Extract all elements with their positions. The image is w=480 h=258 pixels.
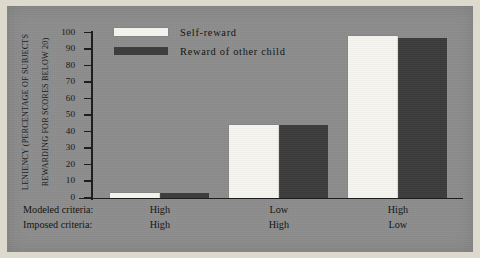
legend-swatch-other-child [114,47,168,55]
figure-page: LENIENCY (PERCENTAGE OF SUBJECTS REWARDI… [0,0,480,258]
bar-group-3 [348,33,447,198]
bar-self-reward-group-3 [348,36,397,198]
y-tick-50: 50 [84,114,91,115]
legend-label-self-reward: Self-reward [180,27,237,38]
y-axis-title-line-2: REWARDING FOR SCORES BELOW 20) [37,20,55,204]
x-axis-row-label-1: Modeled criteria: [23,204,93,215]
legend-item-other-child: Reward of other child [114,44,286,58]
y-tick-100: 100 [84,32,91,33]
y-tick-label-40: 40 [66,126,75,136]
y-axis-title: LENIENCY (PERCENTAGE OF SUBJECTS REWARDI… [17,20,57,204]
y-tick-label-60: 60 [66,93,75,103]
y-tick-0: 0 [84,197,91,198]
y-tick-label-50: 50 [66,109,75,119]
y-tick-90: 90 [84,48,91,49]
legend-label-other-child: Reward of other child [180,46,286,57]
bar-other-child-group-3 [398,38,447,198]
x-axis-row-1: Modeled criteria:HighLowHigh [23,204,473,219]
y-tick-30: 30 [84,147,91,148]
x-axis-value-r2-c2: High [269,219,289,230]
y-tick-80: 80 [84,65,91,66]
chart-legend: Self-reward Reward of other child [114,25,286,63]
x-axis-value-r2-c3: Low [389,219,408,230]
y-tick-label-70: 70 [66,76,75,86]
y-tick-10: 10 [84,180,91,181]
legend-swatch-self-reward [114,28,168,36]
y-tick-label-0: 0 [70,192,75,202]
x-axis-value-r1-c3: High [388,204,408,215]
bar-self-reward-group-1 [110,193,159,198]
y-tick-20: 20 [84,164,91,165]
y-tick-label-100: 100 [61,27,75,37]
x-axis-label-table: Modeled criteria:HighLowHighImposed crit… [23,204,473,234]
x-axis-value-r1-c2: Low [270,204,289,215]
y-tick-70: 70 [84,81,91,82]
x-axis-row-label-2: Imposed criteria: [23,219,92,230]
x-axis-value-r2-c1: High [150,219,170,230]
bar-self-reward-group-2 [229,125,278,198]
bar-other-child-group-2 [279,125,328,198]
y-tick-40: 40 [84,131,91,132]
y-axis-title-line-1: LENIENCY (PERCENTAGE OF SUBJECTS [17,20,35,204]
legend-item-self-reward: Self-reward [114,25,286,39]
y-tick-60: 60 [84,98,91,99]
x-axis-row-2: Imposed criteria:HighHighLow [23,219,473,234]
y-tick-label-20: 20 [66,159,75,169]
y-tick-label-80: 80 [66,60,75,70]
y-tick-label-90: 90 [66,43,75,53]
x-axis-value-r1-c1: High [150,204,170,215]
chart-panel: LENIENCY (PERCENTAGE OF SUBJECTS REWARDI… [7,6,473,252]
bar-other-child-group-1 [160,193,209,198]
y-tick-label-30: 30 [66,142,75,152]
y-tick-label-10: 10 [66,175,75,185]
